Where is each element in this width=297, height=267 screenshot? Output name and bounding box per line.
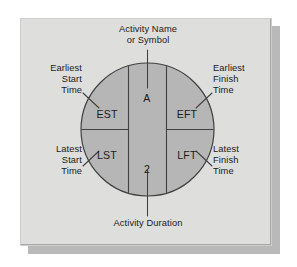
cell-eft: EFT	[166, 108, 208, 120]
cell-activity-duration-value: 2	[128, 163, 166, 175]
callout-earliest-start-time: Earliest Start Time	[20, 63, 82, 97]
cell-activity-name-value: A	[128, 92, 166, 104]
cell-lft: LFT	[166, 149, 208, 161]
callout-activity-name: Activity Name or Symbol	[100, 24, 196, 46]
callout-latest-start-time: Latest Start Time	[20, 144, 82, 178]
callout-earliest-finish-time: Earliest Finish Time	[213, 63, 275, 97]
cell-lst: LST	[86, 149, 128, 161]
callout-activity-duration: Activity Duration	[86, 218, 210, 229]
callout-latest-finish-time: Latest Finish Time	[213, 144, 275, 178]
diagram-screenshot: Activity Name or Symbol Earliest Start T…	[0, 0, 297, 267]
cell-est: EST	[86, 108, 128, 120]
